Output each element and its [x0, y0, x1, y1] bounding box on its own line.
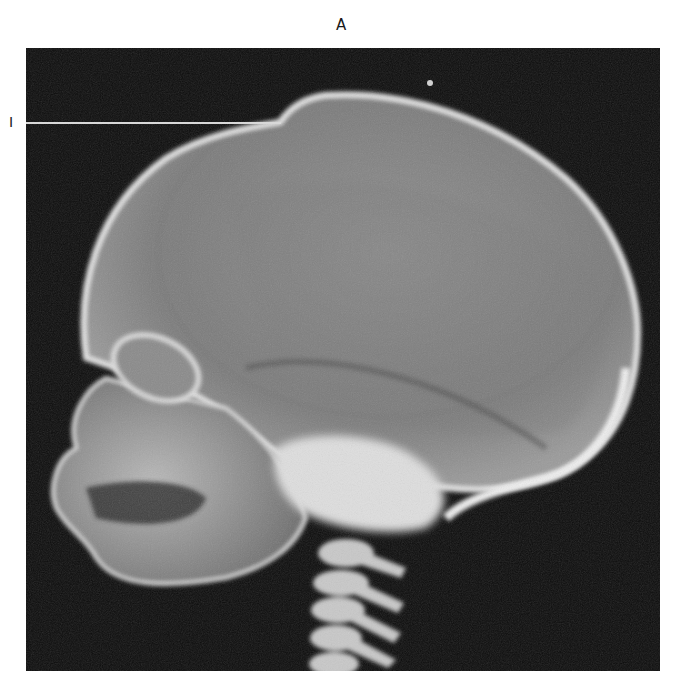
- skull-radiograph-graphic: [26, 48, 660, 671]
- callout-leader-line: [26, 122, 281, 124]
- panel-letter: A: [336, 18, 346, 33]
- marker-dot: [427, 80, 433, 86]
- callout-label: I: [9, 115, 13, 129]
- xray-skull-image: [26, 48, 660, 671]
